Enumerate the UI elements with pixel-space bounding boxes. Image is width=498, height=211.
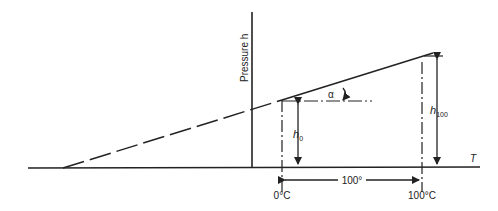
pressure-temperature-diagram: Pressure h T α h0 h100 100° 0°C 100°C [0, 0, 498, 211]
angle-label: α [328, 89, 334, 100]
t0-label: 0°C [274, 190, 291, 201]
temperature-axis-label: T [470, 153, 477, 164]
pressure-line [282, 53, 433, 100]
temperature-axis [28, 167, 480, 168]
pressure-axis-label: Pressure h [239, 34, 250, 82]
extrapolated-line [63, 100, 282, 168]
h0-label: h0 [293, 128, 303, 142]
h100-label: h100 [430, 104, 448, 118]
angle-arc [343, 88, 346, 100]
span-label: 100° [342, 175, 363, 186]
t100-label: 100°C [408, 190, 436, 201]
